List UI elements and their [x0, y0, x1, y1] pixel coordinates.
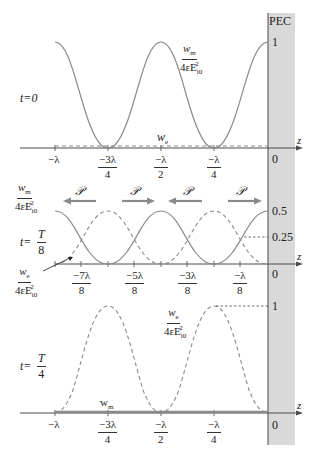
ytick-3-zero: 0 — [272, 419, 278, 431]
z-axis-arrow-2 — [296, 262, 303, 267]
xtick-1-2: −λ2 — [154, 154, 168, 180]
xtick-3-2: −λ2 — [154, 419, 168, 445]
time-label-2-fraction: T8 — [37, 228, 46, 256]
ytick-2-zero: 0 — [272, 268, 278, 280]
time-label-3-fraction: T4 — [37, 352, 46, 380]
poynting-label-3: 𝒫 — [183, 185, 192, 197]
panel-2 — [43, 198, 303, 272]
z-axis-arrow-1 — [296, 146, 303, 151]
xtick-3-1: −3λ4 — [98, 419, 117, 445]
xtick-2-2: −3λ8 — [178, 270, 197, 296]
xtick-1-1: −3λ4 — [98, 154, 117, 180]
ytick-1-top: 1 — [272, 36, 278, 48]
ytick-1-zero: 0 — [272, 153, 278, 165]
xtick-1-3: −λ4 — [207, 154, 221, 180]
poynting-label-2: 𝒫 — [130, 185, 139, 197]
xtick-2-1: −5λ8 — [125, 270, 144, 296]
z-axis-arrow-3 — [296, 411, 303, 416]
z-axis-label-2: z — [297, 251, 301, 262]
pec-region — [268, 13, 295, 445]
xtick-2-0: −7λ8 — [72, 270, 91, 296]
we-curve-3 — [55, 306, 268, 412]
panel-3 — [20, 306, 303, 416]
time-label-2: t= — [20, 236, 31, 248]
wm-curve-2 — [55, 211, 268, 264]
ytick-3-top: 1 — [272, 300, 278, 312]
pec-label: PEC — [269, 15, 291, 27]
energy-density-figure — [0, 0, 319, 455]
we-label-3: we 4εEi02 — [164, 307, 183, 340]
time-label-1: t=0 — [20, 92, 37, 104]
xtick-3-3: −λ4 — [207, 419, 221, 445]
we-label-2: we 4εEi02 — [15, 266, 34, 299]
ytick-2-quarter: 0.25 — [272, 231, 293, 243]
poynting-label-4: 𝒫 — [236, 185, 245, 197]
we-label-1: we — [157, 131, 168, 146]
xtick-2-3: −λ8 — [233, 270, 247, 296]
wm-label-3: wm — [100, 397, 113, 411]
wm-label-2: wm 4εEi02 — [15, 182, 34, 215]
z-axis-label-3: z — [297, 400, 301, 411]
time-label-3: t= — [20, 360, 31, 372]
poynting-arrows — [63, 198, 262, 205]
z-axis-label-1: z — [297, 135, 301, 146]
xtick-1-0: −λ — [48, 154, 60, 165]
wm-label-1: wm 4εEi02 — [180, 43, 199, 76]
ytick-2-half: 0.5 — [272, 205, 287, 217]
we-curve-2 — [55, 211, 268, 264]
xtick-3-0: −λ — [48, 419, 60, 430]
poynting-label-1: 𝒫 — [75, 185, 84, 197]
